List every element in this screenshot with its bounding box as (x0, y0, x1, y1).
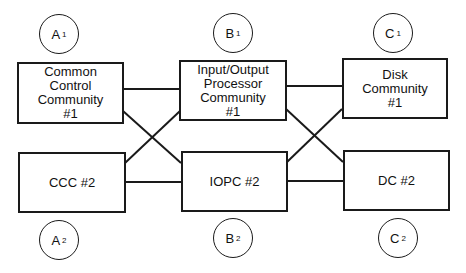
node-ccc-2: CCC #2 (18, 152, 126, 213)
node-text-line: Community (38, 93, 104, 107)
label-circle-b1: B1 (213, 13, 253, 53)
label-subscript: 2 (236, 234, 240, 243)
node-text-line: Control (50, 79, 92, 93)
label-circle-a1: A1 (39, 14, 79, 54)
label-subscript: 2 (401, 234, 405, 243)
node-text-line: Processor (204, 77, 263, 91)
node-text-line: #1 (388, 96, 402, 110)
label-circle-c1: C1 (373, 13, 413, 53)
node-text-line: Common (44, 65, 97, 79)
node-text-line: #1 (63, 107, 77, 121)
node-text-line: Community (362, 82, 428, 96)
node-iopc-2: IOPC #2 (181, 151, 288, 212)
label-letter: B (225, 231, 234, 246)
label-circle-a2: A2 (39, 220, 79, 260)
node-text-line: #1 (226, 105, 240, 119)
node-text-line: Community (200, 91, 266, 105)
label-letter: C (385, 26, 394, 41)
label-subscript: 1 (62, 30, 66, 39)
node-text-line: Input/Output (197, 63, 269, 77)
node-disk-community-1: Disk Community #1 (342, 58, 448, 119)
node-text-line: Disk (382, 68, 407, 82)
label-letter: B (225, 26, 234, 41)
node-text-line: IOPC #2 (210, 175, 260, 189)
node-io-processor-community-1: Input/Output Processor Community #1 (179, 60, 287, 121)
label-circle-c2: C2 (378, 218, 418, 258)
node-text-line: CCC #2 (49, 176, 95, 190)
node-text-line: DC #2 (378, 174, 415, 188)
label-subscript: 2 (62, 236, 66, 245)
node-dc-2: DC #2 (343, 150, 450, 211)
label-circle-b2: B2 (213, 218, 253, 258)
node-common-control-community-1: Common Control Community #1 (17, 62, 124, 124)
label-subscript: 1 (236, 29, 240, 38)
label-letter: A (51, 233, 60, 248)
label-subscript: 1 (396, 29, 400, 38)
label-letter: A (51, 27, 60, 42)
label-letter: C (390, 231, 399, 246)
